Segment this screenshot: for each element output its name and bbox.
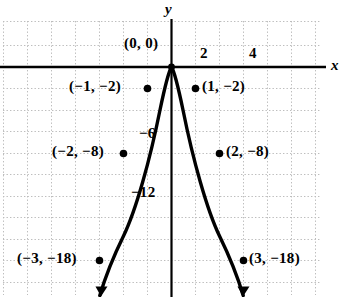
grid-horizontal-lines: [3, 22, 320, 283]
point-label-1-minus2: (1, −2): [202, 79, 245, 94]
point-label-minus2-minus8: (−2, −8): [52, 144, 104, 159]
x-axis-label: x: [331, 58, 339, 73]
arrowhead-right: [238, 287, 250, 297]
x-tick-label-2: 2: [200, 46, 208, 61]
point-label-minus1-minus2: (−1, −2): [69, 79, 121, 94]
point-label-2-minus8: (2, −8): [226, 144, 269, 159]
point-1-n2: [192, 85, 200, 93]
point-0-0: [168, 64, 175, 71]
point-3-n18: [240, 257, 248, 265]
y-tick-label-minus12: −12: [131, 185, 155, 200]
point-label-0-0: (0, 0): [124, 36, 158, 51]
arrowhead-left: [96, 287, 108, 297]
graph-figure: y x 2 4 −6 −12 (0, 0) (−1, −2) (1, −2) (…: [0, 0, 350, 297]
x-tick-label-4: 4: [249, 46, 257, 61]
point-label-minus3-minus18: (−3, −18): [17, 251, 77, 266]
point-n2-n8: [120, 150, 128, 158]
point-2-n8: [216, 150, 224, 158]
y-tick-label-minus6: −6: [139, 126, 156, 141]
point-n1-n2: [144, 85, 152, 93]
y-axis-label: y: [165, 2, 172, 17]
point-label-3-minus18: (3, −18): [249, 251, 300, 266]
point-n3-n18: [96, 257, 104, 265]
